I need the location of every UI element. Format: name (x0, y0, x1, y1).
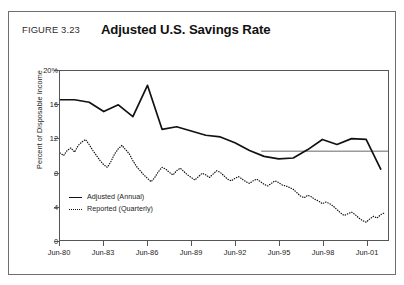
figure-frame: FIGURE 3.23 Adjusted U.S. Savings Rate P… (8, 11, 396, 275)
x-tick-mark (367, 241, 368, 246)
x-tick-mark (191, 241, 192, 246)
x-tick-mark (59, 241, 60, 246)
legend-item: Reported (Quarterly) (69, 204, 153, 213)
legend-dotted-line-icon (69, 204, 82, 213)
chart-legend: Adjusted (Annual)Reported (Quarterly) (69, 192, 153, 213)
x-tick-mark (103, 241, 104, 246)
legend-solid-line-icon (69, 192, 82, 201)
legend-item-label: Adjusted (Annual) (87, 192, 144, 201)
legend-item: Adjusted (Annual) (69, 192, 153, 201)
series-solid (60, 85, 381, 169)
plot-svg (60, 71, 388, 240)
x-tick-mark (323, 241, 324, 246)
chart-area: Percent of Disposable Income 048121620% … (9, 46, 397, 276)
x-tick-mark (279, 241, 280, 246)
legend-item-label: Reported (Quarterly) (87, 204, 153, 213)
figure-header: FIGURE 3.23 Adjusted U.S. Savings Rate (9, 12, 395, 46)
x-tick-label: Jun-01 (339, 248, 395, 257)
x-tick-mark (235, 241, 236, 246)
x-tick-mark (147, 241, 148, 246)
figure-title: Adjusted U.S. Savings Rate (101, 22, 271, 37)
figure-number-label: FIGURE 3.23 (22, 24, 80, 35)
plot-area (59, 70, 389, 241)
